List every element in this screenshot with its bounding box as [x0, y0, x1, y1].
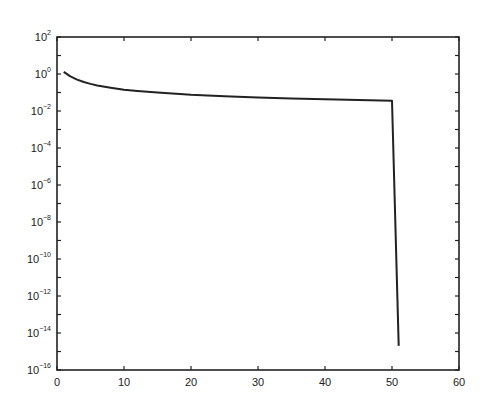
x-tick-label: 20: [185, 376, 197, 388]
y-tick-label: 10−14: [27, 325, 51, 339]
y-tick-label: 10−12: [27, 288, 51, 302]
x-tick-label: 0: [54, 376, 60, 388]
y-tick-label: 102: [35, 29, 51, 43]
y-tick-label: 10−6: [31, 177, 51, 191]
x-tick-label: 60: [453, 376, 465, 388]
x-tick-label: 40: [319, 376, 331, 388]
x-tick-label: 10: [118, 376, 130, 388]
y-tick-label: 10−16: [27, 362, 51, 376]
x-tick-label: 50: [386, 376, 398, 388]
y-tick-label: 100: [35, 66, 51, 80]
y-tick-label: 10−4: [31, 140, 51, 154]
log-line-chart: 010203040506010210010−210−410−610−810−10…: [0, 0, 488, 404]
data-line: [64, 72, 399, 346]
y-tick-label: 10−10: [27, 251, 51, 265]
x-tick-label: 30: [252, 376, 264, 388]
y-tick-label: 10−2: [31, 103, 51, 117]
tick-labels: 010203040506010210010−210−410−610−810−10…: [27, 29, 465, 388]
y-tick-label: 10−8: [31, 214, 51, 228]
